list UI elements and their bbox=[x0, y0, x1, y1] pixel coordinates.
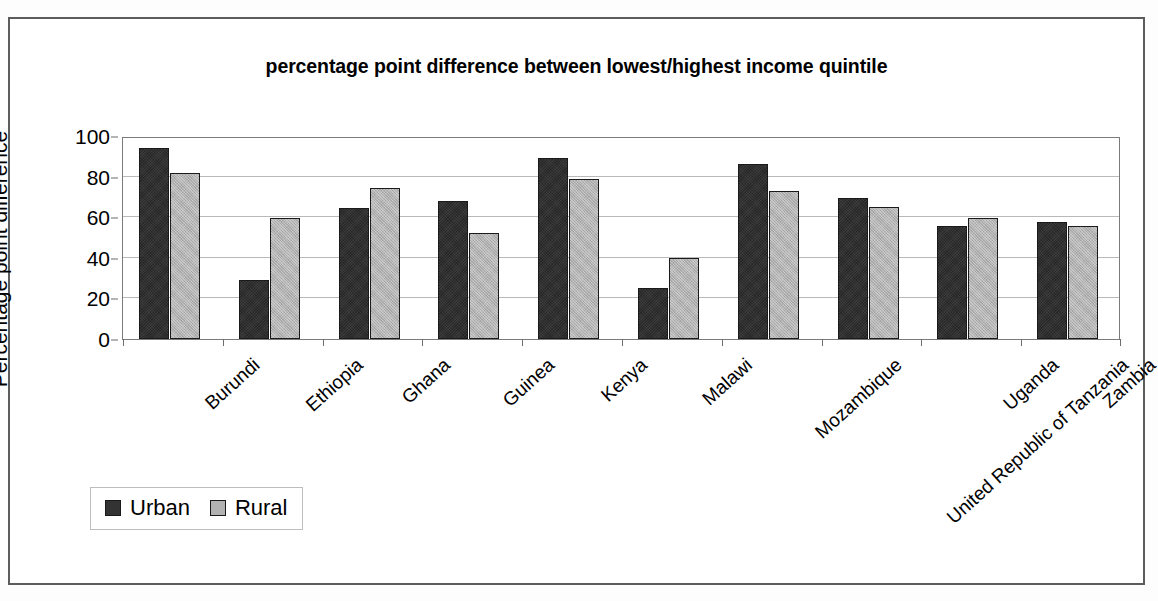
x-axis-label: Malawi bbox=[698, 354, 757, 410]
legend-item-rural[interactable]: Rural bbox=[210, 495, 288, 521]
y-tick-label: 20 bbox=[87, 287, 110, 311]
bar-rural bbox=[370, 188, 400, 339]
y-axis-label: Percentage point difference bbox=[0, 129, 12, 389]
y-axis-tick-labels: 020406080100 bbox=[40, 137, 118, 340]
x-axis-label: Uganda bbox=[999, 354, 1063, 415]
y-tick-label: 80 bbox=[87, 166, 110, 190]
y-tick-mark bbox=[111, 177, 118, 178]
bar-urban bbox=[339, 208, 369, 339]
bar-urban bbox=[1037, 222, 1067, 339]
y-tick-mark bbox=[111, 299, 118, 300]
bar-rural bbox=[968, 218, 998, 339]
bar-urban bbox=[239, 280, 269, 339]
bar-rural bbox=[769, 191, 799, 339]
x-axis-label: Kenya bbox=[597, 354, 652, 406]
bar-group bbox=[921, 138, 1021, 339]
bar-group bbox=[323, 138, 423, 339]
urban-swatch-icon bbox=[105, 500, 121, 516]
y-tick-mark bbox=[111, 258, 118, 259]
y-tick-label: 0 bbox=[98, 328, 110, 352]
y-tick-label: 40 bbox=[87, 247, 110, 271]
bar-rural bbox=[469, 233, 499, 339]
bar-urban bbox=[638, 288, 668, 339]
bar-group bbox=[822, 138, 922, 339]
rural-swatch-icon bbox=[210, 500, 226, 516]
bar-rural bbox=[170, 173, 200, 339]
plot-area bbox=[122, 137, 1120, 340]
x-axis-category-labels: BurundiEthiopiaGhanaGuineaKenyaMalawiMoz… bbox=[122, 340, 1120, 490]
bar-group bbox=[722, 138, 822, 339]
x-axis-label: Guinea bbox=[499, 354, 559, 411]
x-axis-label: Burundi bbox=[201, 354, 264, 414]
bar-rural bbox=[1068, 226, 1098, 339]
y-tick-label: 60 bbox=[87, 206, 110, 230]
bar-urban bbox=[139, 148, 169, 339]
bar-urban bbox=[838, 198, 868, 339]
x-axis-label: Mozambique bbox=[811, 354, 907, 443]
y-tick-label: 100 bbox=[75, 125, 110, 149]
legend-item-urban[interactable]: Urban bbox=[105, 495, 190, 521]
bar-rural bbox=[270, 218, 300, 339]
bar-urban bbox=[538, 158, 568, 339]
legend-label: Rural bbox=[235, 495, 288, 521]
chart-legend: UrbanRural bbox=[90, 487, 303, 530]
bar-group bbox=[123, 138, 223, 339]
bar-urban bbox=[738, 164, 768, 339]
x-axis-label: Ghana bbox=[398, 354, 455, 409]
x-tick-mark bbox=[1120, 339, 1121, 346]
bar-rural bbox=[869, 207, 899, 339]
bar-urban bbox=[937, 226, 967, 339]
bar-rural bbox=[569, 179, 599, 339]
x-axis-label: Ethiopia bbox=[301, 354, 367, 416]
y-tick-mark bbox=[111, 218, 118, 219]
chart-title: percentage point difference between lowe… bbox=[10, 55, 1143, 78]
legend-label: Urban bbox=[130, 495, 190, 521]
bar-group bbox=[1021, 138, 1121, 339]
page-root: percentage point difference between lowe… bbox=[0, 0, 1158, 601]
bar-rural bbox=[669, 258, 699, 339]
bar-urban bbox=[438, 201, 468, 339]
bar-group bbox=[223, 138, 323, 339]
bar-group bbox=[422, 138, 522, 339]
bar-group bbox=[522, 138, 622, 339]
y-tick-mark bbox=[111, 340, 118, 341]
bar-group bbox=[622, 138, 722, 339]
chart-frame: percentage point difference between lowe… bbox=[8, 17, 1145, 585]
y-tick-mark bbox=[111, 137, 118, 138]
